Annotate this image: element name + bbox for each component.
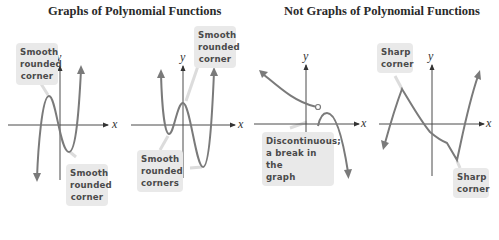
y-axis-label: y <box>303 49 308 64</box>
callout-sharp-corner: Sharp corner <box>377 43 413 73</box>
x-axis-label: x <box>112 117 117 132</box>
upper-curve-piece <box>263 74 315 107</box>
y-axis-label: y <box>180 50 185 65</box>
curve-arrow-up-icon <box>210 67 218 76</box>
y-axis-label: y <box>428 49 433 64</box>
callout-discontinuous: Discontinuous; a break in the graph <box>262 132 334 186</box>
x-axis-label: x <box>361 116 366 131</box>
callout-pointers <box>38 66 460 168</box>
callout-smooth-rounded-corner: Smooth rounded corner <box>66 164 108 206</box>
callout-sharp-corner: Sharp corner <box>453 168 489 198</box>
callout-smooth-rounded-corners: Smooth rounded corners <box>137 150 183 192</box>
curve-arrow-down-icon <box>33 173 41 182</box>
callout-smooth-rounded-corner: Smooth rounded corner <box>194 26 236 68</box>
curve-arrow-up-icon <box>474 70 481 80</box>
graph-not-polynomial-sharp-corners <box>379 65 484 176</box>
curve-arrow-down-icon <box>381 140 389 150</box>
x-axis-label: x <box>486 116 491 131</box>
callout-smooth-rounded-corner: Smooth rounded corner <box>16 43 58 85</box>
x-axis-label: x <box>238 117 243 132</box>
open-circle-icon <box>316 105 321 110</box>
curve-arrow-up-icon <box>77 65 85 74</box>
curve-arrow-down-icon <box>344 169 352 179</box>
curve-arrow-up-icon <box>157 69 165 78</box>
